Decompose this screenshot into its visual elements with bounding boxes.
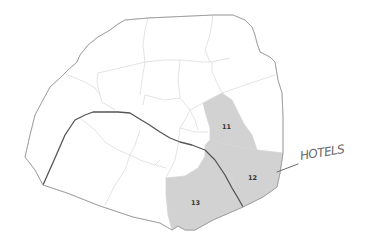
paris-map: 11 12 13 xyxy=(0,0,382,247)
district-13-label: 13 xyxy=(191,199,200,207)
district-12-label: 12 xyxy=(248,174,257,182)
district-11-label: 11 xyxy=(222,123,232,131)
